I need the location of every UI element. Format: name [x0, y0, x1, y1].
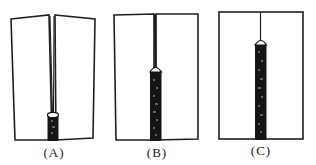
- panel-b-weld-bead: [150, 68, 162, 142]
- panel-a-weld-bead: [48, 112, 59, 141]
- panel-a-right-plate: [55, 15, 95, 140]
- weld-progression-diagram: [0, 0, 316, 165]
- panel-b: [114, 14, 198, 141]
- panel-c: [219, 12, 303, 140]
- panel-a: [11, 15, 95, 141]
- panel-a-left-plate: [11, 15, 52, 140]
- panel-b-right-plate: [156, 14, 198, 140]
- panel-b-seam: [155, 14, 156, 68]
- panel-c-label: (C): [251, 143, 271, 159]
- panel-b-label: (B): [147, 145, 167, 161]
- panel-a-seam-right: [54, 16, 55, 112]
- panel-a-label: (A): [43, 145, 64, 161]
- panel-c-weld-bead: [255, 41, 267, 141]
- panel-b-left-plate: [114, 14, 154, 140]
